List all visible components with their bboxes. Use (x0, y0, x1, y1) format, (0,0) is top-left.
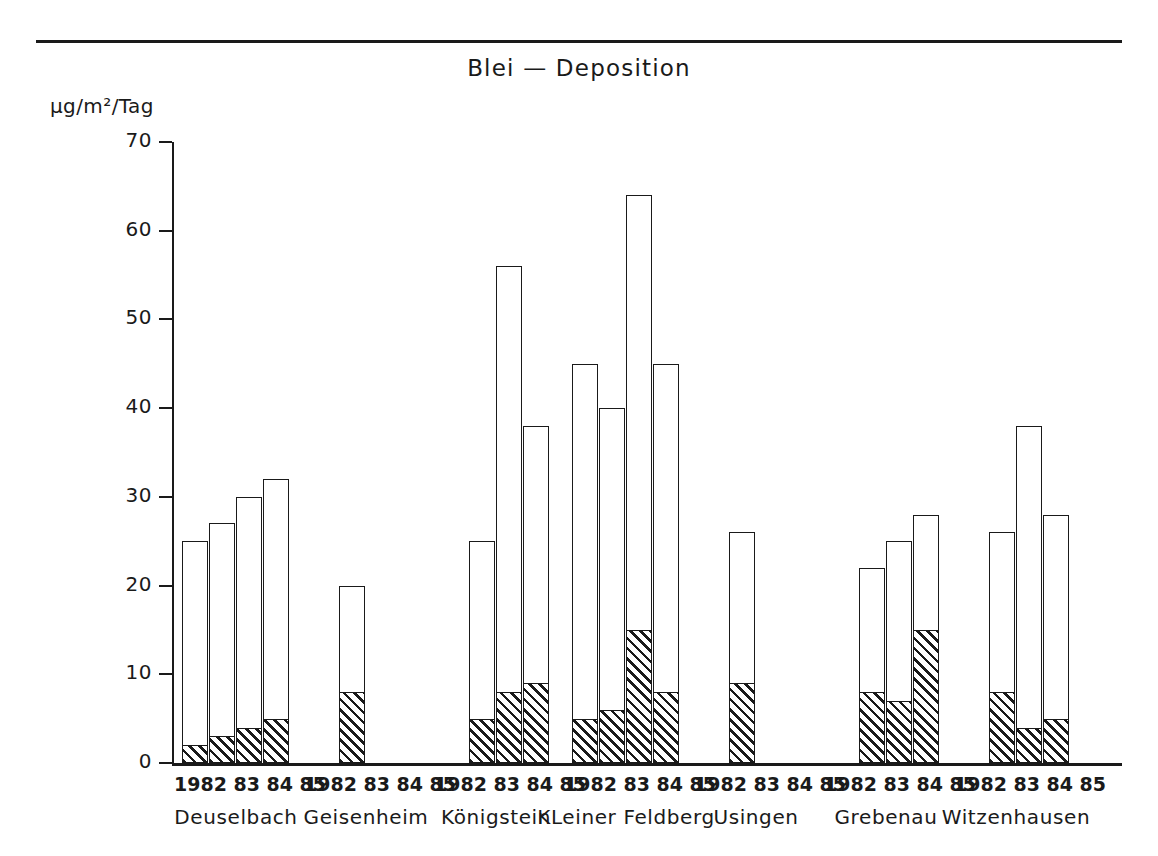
bar-deuselbach-83-total (209, 523, 235, 763)
bar-deuselbach-85-hatched (263, 719, 289, 763)
y-tick-0 (159, 762, 172, 764)
y-axis-line (172, 142, 174, 763)
bar-kleiner-feldberg-85-hatched (653, 692, 679, 763)
y-axis-unit-label: µg/m²/Tag (50, 94, 154, 118)
bar-kleiner-feldberg-83-hatched (599, 710, 625, 763)
bar-grebenau-85-hatched (913, 630, 939, 763)
chart-canvas: Blei — Deposition µg/m²/Tag 1982 83 84 8… (0, 0, 1158, 856)
y-tick-label-50: 50 (0, 305, 152, 329)
y-tick-label-30: 30 (0, 483, 152, 507)
y-tick-label-10: 10 (0, 660, 152, 684)
x-year-row-grebenau: 1982 83 84 85 (824, 773, 948, 795)
bar-königstein-84-total (496, 266, 522, 763)
bar-königstein-85-hatched (523, 683, 549, 763)
x-axis-line (172, 763, 1122, 766)
bar-witzenhausen-85-hatched (1043, 719, 1069, 763)
bar-grebenau-84-hatched (886, 701, 912, 763)
y-tick-30 (159, 496, 172, 498)
bar-grebenau-83-hatched (859, 692, 885, 763)
bar-kleiner-feldberg-84-hatched (626, 630, 652, 763)
y-tick-60 (159, 230, 172, 232)
top-rule-divider (36, 40, 1122, 43)
bar-deuselbach-84-hatched (236, 728, 262, 763)
x-year-row-deuselbach: 1982 83 84 85 (174, 773, 298, 795)
bar-witzenhausen-84-hatched (1016, 728, 1042, 763)
y-tick-label-0: 0 (0, 749, 152, 773)
bar-kleiner-feldberg-1982-hatched (572, 719, 598, 763)
bar-deuselbach-1982-total (182, 541, 208, 763)
bar-königstein-83-hatched (469, 719, 495, 763)
bar-königstein-84-hatched (496, 692, 522, 763)
bar-geisenheim-83-hatched (339, 692, 365, 763)
y-tick-label-40: 40 (0, 394, 152, 418)
x-station-label-witzenhausen: Witzenhausen (922, 805, 1110, 829)
x-year-row-usingen: 1982 83 84 85 (694, 773, 818, 795)
y-tick-label-20: 20 (0, 572, 152, 596)
chart-title: Blei — Deposition (0, 55, 1158, 81)
bar-usingen-83-hatched (729, 683, 755, 763)
y-tick-70 (159, 141, 172, 143)
bar-kleiner-feldberg-1982-total (572, 364, 598, 763)
x-year-row-kleiner-feldberg: 1982 83 84 85 (564, 773, 688, 795)
bar-deuselbach-84-total (236, 497, 262, 763)
y-tick-40 (159, 407, 172, 409)
bar-deuselbach-1982-hatched (182, 745, 208, 763)
plot-area (172, 142, 1122, 763)
y-tick-label-70: 70 (0, 128, 152, 152)
y-tick-label-60: 60 (0, 217, 152, 241)
x-year-row-witzenhausen: 1982 83 84 85 (954, 773, 1078, 795)
y-tick-50 (159, 318, 172, 320)
y-tick-20 (159, 585, 172, 587)
x-year-row-königstein: 1982 83 84 85 (434, 773, 558, 795)
bar-witzenhausen-84-total (1016, 426, 1042, 763)
bar-witzenhausen-83-hatched (989, 692, 1015, 763)
x-year-row-geisenheim: 1982 83 84 85 (304, 773, 428, 795)
y-tick-10 (159, 673, 172, 675)
bar-deuselbach-83-hatched (209, 736, 235, 763)
